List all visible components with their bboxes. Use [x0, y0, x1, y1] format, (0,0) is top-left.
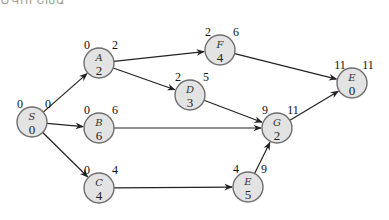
node-duration: 6	[96, 128, 103, 143]
node-early-time: 0	[17, 97, 23, 111]
node-late-time: 0	[45, 97, 51, 111]
node-label: D	[185, 84, 194, 95]
nodes: S000A202B606C404F426D325G2911E01111E549	[17, 25, 374, 203]
node-duration: 5	[245, 187, 252, 202]
node-e1: E01111	[334, 58, 374, 98]
node-late-time: 2	[112, 38, 118, 52]
node-label: E	[347, 72, 356, 83]
node-d: D325	[175, 70, 209, 110]
node-duration: 4	[96, 188, 103, 203]
node-early-time: 11	[334, 58, 346, 72]
node-late-time: 11	[362, 58, 374, 72]
edge-f-e1	[235, 54, 337, 80]
node-f: F426	[205, 25, 239, 65]
node-e2: E549	[233, 162, 267, 202]
node-label: S	[29, 111, 36, 122]
edge-a-f	[114, 52, 204, 62]
node-early-time: 0	[84, 163, 90, 177]
node-late-time: 6	[112, 103, 118, 117]
node-duration: 0	[349, 83, 356, 98]
node-early-time: 0	[84, 38, 90, 52]
node-early-time: 0	[84, 103, 90, 117]
node-late-time: 9	[261, 162, 267, 176]
node-early-time: 2	[205, 25, 211, 39]
node-label: B	[94, 117, 102, 128]
node-b: B606	[84, 103, 118, 143]
edge-s-c	[43, 133, 88, 177]
node-early-time: 4	[233, 162, 239, 176]
node-duration: 0	[29, 122, 36, 137]
node-label: E	[243, 176, 252, 187]
node-late-time: 11	[287, 103, 299, 117]
edge-d-g	[204, 100, 262, 122]
node-late-time: 6	[233, 25, 239, 39]
node-early-time: 9	[262, 103, 268, 117]
node-duration: 3	[187, 95, 194, 110]
node-g: G2911	[262, 103, 299, 143]
node-label: A	[94, 52, 102, 63]
node-a: A202	[84, 38, 118, 78]
node-duration: 2	[96, 63, 103, 78]
activity-network-diagram: S000A202B606C404F426D325G2911E01111E549	[0, 0, 389, 220]
edge-a-d	[113, 68, 175, 90]
node-late-time: 5	[203, 70, 209, 84]
node-s: S000	[17, 97, 51, 137]
node-duration: 4	[217, 50, 224, 65]
node-label: F	[216, 39, 225, 50]
edge-c-e2	[114, 187, 232, 188]
node-label: C	[95, 177, 103, 188]
node-late-time: 4	[112, 163, 118, 177]
node-c: C404	[84, 163, 118, 203]
node-early-time: 2	[175, 70, 181, 84]
node-label: G	[273, 117, 281, 128]
node-duration: 2	[274, 128, 281, 143]
edge-s-b	[47, 123, 83, 126]
